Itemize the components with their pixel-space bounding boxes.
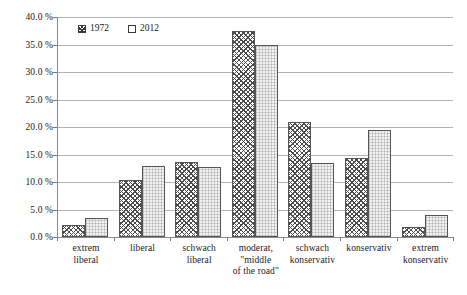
x-axis-label-line: konservativ bbox=[395, 255, 457, 267]
legend-swatch-icon bbox=[128, 25, 136, 33]
x-axis-label-moderat: moderat, "middle of the road" bbox=[225, 243, 287, 278]
bar-groups bbox=[57, 17, 453, 237]
x-axis-label-line: moderat, bbox=[225, 243, 287, 255]
y-axis-tick-label: 5.0 % bbox=[0, 205, 53, 215]
bar-2012[interactable] bbox=[425, 215, 448, 237]
bar-2012[interactable] bbox=[255, 45, 278, 238]
x-axis-label-line: extrem bbox=[395, 243, 457, 255]
x-axis-label-line: konservativ bbox=[338, 243, 400, 255]
x-axis-tick bbox=[170, 237, 171, 241]
bar-1972[interactable] bbox=[402, 227, 425, 237]
y-axis-tick-label: 40.0 % bbox=[0, 12, 53, 22]
x-axis-tick bbox=[227, 237, 228, 241]
legend-entry-2012[interactable]: 2012 bbox=[128, 23, 159, 34]
legend-entry-1972[interactable]: 1972 bbox=[78, 23, 109, 34]
bar-1972[interactable] bbox=[175, 162, 198, 237]
bar-1972[interactable] bbox=[288, 122, 311, 238]
legend-label: 1972 bbox=[90, 23, 109, 34]
y-axis-tick-label: 30.0 % bbox=[0, 67, 53, 77]
bar-1972[interactable] bbox=[232, 31, 255, 237]
bar-1972[interactable] bbox=[119, 180, 142, 237]
legend-swatch-icon bbox=[78, 25, 86, 33]
x-axis-label-extrem-liberal: extrem liberal bbox=[55, 243, 117, 266]
x-axis-label-schwach-liberal: schwach liberal bbox=[168, 243, 230, 266]
x-axis-label-liberal: liberal bbox=[112, 243, 174, 255]
y-axis-tick-label: 15.0 % bbox=[0, 150, 53, 160]
bar-2012[interactable] bbox=[198, 167, 221, 237]
chart-legend: 1972 2012 bbox=[78, 23, 159, 34]
bar-chart: 40.0 % 35.0 % 30.0 % 25.0 % 20.0 % 15.0 … bbox=[0, 0, 467, 295]
x-axis-labels: extrem liberal liberal schwach liberal m… bbox=[57, 243, 453, 295]
x-axis-label-line: schwach bbox=[168, 243, 230, 255]
bar-2012[interactable] bbox=[368, 130, 391, 237]
x-axis-label-extrem-konservativ: extrem konservativ bbox=[395, 243, 457, 266]
bar-1972[interactable] bbox=[62, 225, 85, 237]
y-axis-tick-label: 20.0 % bbox=[0, 122, 53, 132]
x-axis-label-konservativ: konservativ bbox=[338, 243, 400, 255]
x-axis-label-line: extrem bbox=[55, 243, 117, 255]
x-axis-label-line: liberal bbox=[112, 243, 174, 255]
x-axis-tick bbox=[453, 237, 454, 241]
x-axis-tick bbox=[397, 237, 398, 241]
x-axis-label-line: of the road" bbox=[225, 266, 287, 278]
bar-2012[interactable] bbox=[85, 218, 108, 237]
x-axis-tick bbox=[114, 237, 115, 241]
x-axis-tick bbox=[283, 237, 284, 241]
bar-2012[interactable] bbox=[142, 166, 165, 238]
x-axis-tick bbox=[340, 237, 341, 241]
y-axis-tick-label: 0.0 % bbox=[0, 232, 53, 242]
x-axis-label-line: liberal bbox=[168, 255, 230, 267]
x-axis-label-line: liberal bbox=[55, 255, 117, 267]
x-axis-label-line: schwach bbox=[281, 243, 343, 255]
y-axis-labels: 40.0 % 35.0 % 30.0 % 25.0 % 20.0 % 15.0 … bbox=[0, 0, 53, 295]
bar-1972[interactable] bbox=[345, 158, 368, 237]
x-axis-label-line: konservativ bbox=[281, 255, 343, 267]
y-axis-tick-label: 35.0 % bbox=[0, 40, 53, 50]
y-axis-tick-label: 25.0 % bbox=[0, 95, 53, 105]
x-axis-label-schwach-konservativ: schwach konservativ bbox=[281, 243, 343, 266]
bar-2012[interactable] bbox=[311, 163, 334, 237]
x-axis-label-line: "middle bbox=[225, 255, 287, 267]
y-axis-tick-label: 10.0 % bbox=[0, 177, 53, 187]
gridline-0-baseline bbox=[57, 237, 453, 238]
x-axis-tick bbox=[57, 237, 58, 241]
legend-label: 2012 bbox=[140, 23, 159, 34]
